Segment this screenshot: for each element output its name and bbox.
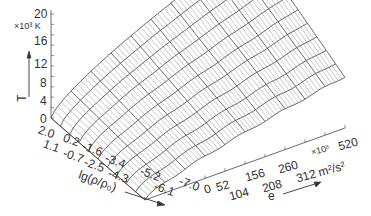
- z-tick-20: 20: [34, 8, 47, 20]
- z-tick-16: 16: [34, 35, 47, 47]
- z-tick-12: 12: [34, 58, 47, 70]
- y-axis-label: e: [268, 190, 275, 202]
- z-tick-4: 4: [40, 95, 47, 107]
- z-tick-8: 8: [40, 77, 47, 89]
- z-unit: ×10³ K: [14, 22, 41, 31]
- z-axis-label: T: [16, 94, 28, 101]
